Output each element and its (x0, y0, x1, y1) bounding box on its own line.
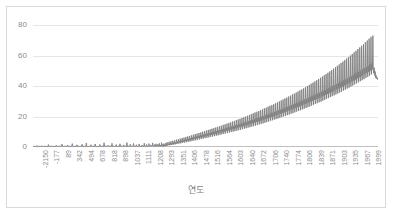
x-axis-tick-label: 1111 (145, 150, 152, 164)
line-series-path (33, 36, 378, 147)
x-axis-tick-label: 898 (122, 150, 129, 162)
x-axis-tick-label: 494 (88, 150, 95, 162)
x-axis-tick-label: 1564 (226, 150, 233, 166)
y-axis-tick-label: 20 (9, 113, 27, 121)
x-axis-tick-label: 1806 (306, 150, 313, 166)
x-axis-tick-label: 89 (65, 150, 72, 158)
y-axis-tick-label: 0 (9, 143, 27, 151)
x-axis-tick-labels: -2150-1778934249467881889810371111120812… (33, 150, 378, 186)
x-axis-tick-label: 342 (76, 150, 83, 162)
x-axis-tick-label: 818 (111, 150, 118, 162)
x-axis-tick-label: 1672 (260, 150, 267, 166)
plot-area (33, 25, 378, 147)
x-axis-tick-label: 1603 (237, 150, 244, 166)
x-axis-tick-label: 1839 (318, 150, 325, 166)
x-axis-tick-label: 1903 (341, 150, 348, 166)
x-axis-tick-label: 1208 (157, 150, 164, 166)
x-axis-tick-label: 1037 (134, 150, 141, 166)
x-axis-tick-label: 678 (99, 150, 106, 162)
y-axis-tick-label: 60 (9, 52, 27, 60)
x-axis-tick-label: 1871 (329, 150, 336, 166)
x-axis-tick-label: -2150 (42, 150, 49, 168)
x-axis-tick-label: 1740 (283, 150, 290, 166)
chart-plot-wrapper: 020406080 -2150-177893424946788188981037… (7, 7, 385, 207)
y-axis-tick-label: 40 (9, 82, 27, 90)
x-axis-tick-label: 1351 (180, 150, 187, 166)
x-axis-title: 연도 (7, 183, 385, 196)
line-series-svg (33, 25, 378, 147)
y-axis-tick-label: 80 (9, 21, 27, 29)
x-axis-tick-label: 1640 (249, 150, 256, 166)
x-axis-tick-label: 1406 (191, 150, 198, 166)
x-axis-tick-label: 1967 (364, 150, 371, 166)
x-axis-tick-label: 1478 (203, 150, 210, 166)
x-axis-tick-label: 1935 (352, 150, 359, 166)
x-axis-tick-label: 1516 (214, 150, 221, 166)
x-axis-tick-label: 1999 (375, 150, 382, 166)
x-axis-tick-label: 1706 (272, 150, 279, 166)
x-axis-tick-label: -177 (53, 150, 60, 164)
x-axis-tick-label: 1293 (168, 150, 175, 166)
chart-frame: 020406080 -2150-177893424946788188981037… (6, 6, 386, 208)
x-axis-tick-label: 1774 (295, 150, 302, 166)
